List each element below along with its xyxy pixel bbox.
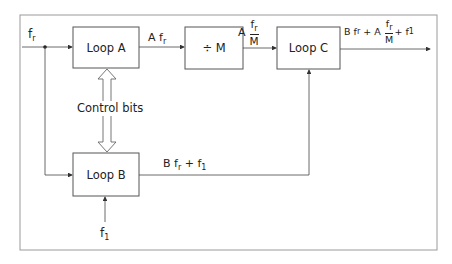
loop-c-label: Loop C	[277, 27, 340, 69]
fr-branch-line	[45, 47, 72, 175]
fr-input-label: fr	[28, 28, 36, 43]
control-bits-label: Control bits	[77, 103, 143, 115]
divider-label: ÷ M	[185, 27, 243, 69]
loop-b-label: Loop B	[73, 153, 139, 196]
loop-a-label: Loop A	[73, 27, 139, 68]
divider-output-label: A frM	[238, 19, 260, 47]
loop-a-output-label: A fr	[148, 32, 166, 46]
loop-c-output-label: B fr + A frM + f1	[344, 19, 414, 45]
f1-input-label: f1	[100, 227, 109, 242]
loop-b-output-label: B fr + f1	[163, 158, 206, 172]
